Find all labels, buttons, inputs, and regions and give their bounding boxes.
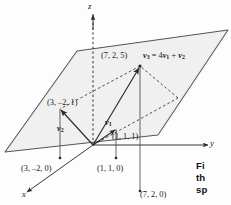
vector-label-v1: v1 [105,119,112,127]
foot-dot-v2 [59,157,62,160]
foot-dot-v1 [115,157,118,160]
equation-v3: v3 = 4v1 + v2 [143,52,185,60]
figure-caption-line-3: sp [196,184,231,196]
point-label-v2-foot: (3, –2, 0) [21,165,51,173]
vector-label-v2: v2 [57,125,64,133]
point-label-v3-tip: (7, 2, 5) [101,52,127,60]
point-label-v1-foot: (1, 1, 0) [97,165,123,173]
vector-label-v1-subscript: 1 [109,121,112,127]
z-axis-label: z [88,2,91,11]
figure-caption-line-2: th [196,172,231,184]
equation-relation: = 4 [150,51,163,60]
equation-term2-subscript: 2 [182,54,185,60]
point-label-v2-tip: (3, –2, 1) [47,99,77,107]
figure-caption-line-1: Fi [196,160,231,172]
y-axis-label: y [210,139,214,148]
tip-dot-v3 [139,65,142,68]
figure-caption: Fi th sp [196,160,231,197]
vector-label-v2-subscript: 2 [61,127,64,133]
x-axis-label: x [22,190,26,199]
equation-plus: + [169,51,178,60]
point-label-v3-foot: (7, 2, 0) [140,191,166,199]
figure-container: z y x (7, 2, 5) (3, –2, 1) (1, 1, 1) (3,… [0,0,231,205]
point-label-v1-tip: (1, 1, 1) [112,133,138,141]
